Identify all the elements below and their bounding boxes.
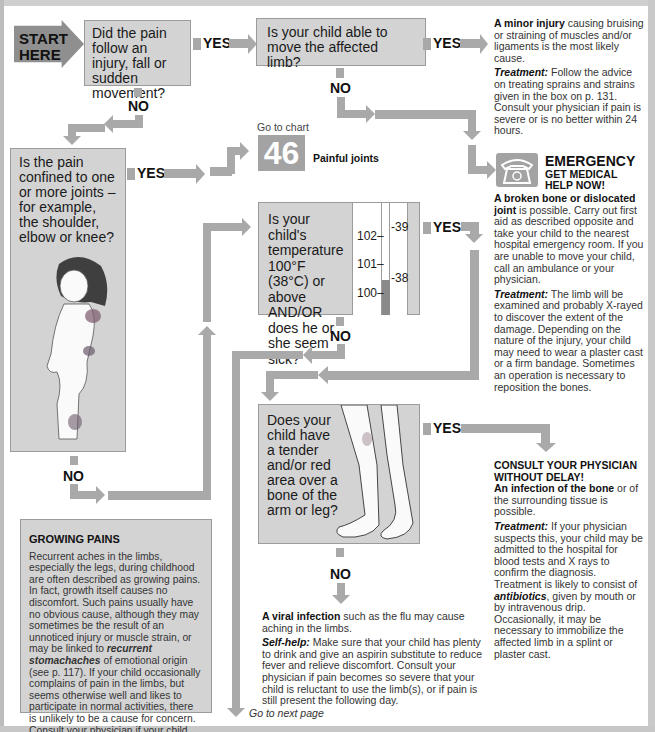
arrow-to-46-c <box>227 147 241 155</box>
emergency-result: A broken bone or dislocated joint is pos… <box>494 193 644 396</box>
arrow-q4-no-left <box>312 351 345 359</box>
no-label-q5: NO <box>330 566 351 582</box>
question-joints-text: Is the pain confined to one or more join… <box>19 154 115 245</box>
minor-injury-heading: A minor injury <box>494 17 565 29</box>
arrowhead-left <box>318 366 328 384</box>
arrowhead-down <box>332 595 350 604</box>
no-label-q4: NO <box>330 328 351 344</box>
consult-heading: An infection of the bone <box>494 482 614 494</box>
minor-injury-result: A minor injury causing bruising or strai… <box>494 18 644 140</box>
thermometer-scale: 102– 101– 100– -39 -38 <box>352 203 408 315</box>
yes-label-q5: YES <box>423 420 461 436</box>
question-move-limb: Is your child able to move the affected … <box>256 18 426 66</box>
tick-label: 39 <box>395 220 408 234</box>
yes-label-q3: YES <box>127 165 165 181</box>
yes-marker <box>193 38 201 50</box>
arrow-to-emergency-right <box>468 166 488 174</box>
arrow-down-to-q5 <box>470 250 479 380</box>
yes-label-q2: YES <box>423 35 461 51</box>
tick-label: 101 <box>357 257 377 271</box>
page-frame-top <box>0 0 655 6</box>
arrow-down-to-next-page <box>232 351 240 711</box>
arrow-q5-yes-right <box>461 424 549 433</box>
emergency-text: is possible. Carry out first aid as desc… <box>494 204 643 286</box>
yes-marker <box>423 222 431 234</box>
arrowhead-right <box>240 142 249 160</box>
emergency-treatment: The limb will be examined and probably X… <box>494 288 643 393</box>
painful-joints-link[interactable]: Painful joints <box>313 152 379 164</box>
arrow-q3-no-right <box>70 491 96 499</box>
question-temperature: Is your child's temperature 100°F (38°C)… <box>258 202 420 315</box>
question-injury-text: Did the pain follow an injury, fall or s… <box>92 25 167 101</box>
consult-title-line2: WITHOUT DELAY! <box>494 471 584 483</box>
yes-marker <box>423 423 431 435</box>
arrowhead-left <box>104 115 113 133</box>
f-tick-102: 102– <box>357 228 384 244</box>
yes-text: YES <box>137 165 165 181</box>
yes-text: YES <box>433 35 461 51</box>
arrow-up-to-q4-upper <box>203 227 211 322</box>
arrowhead-right <box>366 105 375 123</box>
arrowhead-up <box>198 326 216 335</box>
no-label-q1: NO <box>128 98 149 114</box>
yes-label-q4: YES <box>423 219 461 235</box>
growing-pains-box: GROWING PAINS Recurrent aches in the lim… <box>20 519 212 713</box>
consult-result: CONSULT YOUR PHYSICIAN WITHOUT DELAY! An… <box>494 460 644 663</box>
start-label-line2: HERE <box>19 46 61 63</box>
arrow-q2-no-long <box>375 110 475 119</box>
treatment-label: Treatment: <box>494 66 548 78</box>
arrow-to-q4-right <box>203 223 243 231</box>
arrowhead-down <box>463 131 481 140</box>
arrowhead-down <box>465 234 483 243</box>
yes-text: YES <box>203 35 231 51</box>
yes-marker <box>423 38 431 50</box>
no-marker-q4 <box>336 317 344 326</box>
consult-title: CONSULT YOUR PHYSICIAN WITHOUT DELAY! <box>494 460 644 483</box>
arrowhead-down <box>227 708 245 717</box>
arrow-q2-no-right <box>337 110 367 118</box>
antibiotics-term: antibiotics <box>494 590 547 602</box>
arrowhead-down <box>63 136 81 145</box>
question-injury: Did the pain follow an injury, fall or s… <box>84 20 191 86</box>
emergency-subtitle: GET MEDICAL HELP NOW! <box>545 169 617 191</box>
arrow-up-to-q4-lower <box>203 330 211 500</box>
arrow-q4-no-long <box>233 351 303 359</box>
go-to-next-page-link[interactable]: Go to next page <box>249 707 324 719</box>
telephone-icon-glyph <box>496 153 538 187</box>
telephone-icon <box>496 153 538 187</box>
yes-marker <box>127 168 135 180</box>
tick-label: 38 <box>395 271 408 285</box>
question-joints: Is the pain confined to one or more join… <box>10 148 126 452</box>
arrow-q3-no-long <box>108 491 204 500</box>
chart-46-link[interactable]: 46 <box>258 135 305 171</box>
no-marker-q1 <box>134 88 142 97</box>
arrow-q1-no-left2 <box>75 124 105 132</box>
arrowhead-down <box>536 443 556 452</box>
goto-chart-label: Go to chart <box>257 121 309 133</box>
arrowhead-right <box>487 161 496 179</box>
arrowhead-right <box>96 486 105 504</box>
start-label: START HERE <box>19 31 68 63</box>
start-label-line1: START <box>19 30 68 47</box>
emergency-title: EMERGENCY <box>545 154 635 169</box>
page-frame-left <box>0 0 4 732</box>
arrow-q2-no-down2 <box>468 110 476 132</box>
no-marker-q3 <box>70 456 78 465</box>
arrow-q2-yes <box>460 39 480 48</box>
arrowhead-right <box>242 218 251 236</box>
consult-title-line1: CONSULT YOUR PHYSICIAN <box>494 459 637 471</box>
f-tick-101: 101– <box>357 256 384 272</box>
arrow-q1-no-left <box>113 120 143 128</box>
arrow-q5-yes-down <box>541 424 550 444</box>
growing-pains-text-1: Recurrent aches in the limbs, especially… <box>29 551 200 655</box>
viral-infection-result: A viral infection such as the flu may ca… <box>262 611 487 710</box>
yes-text: YES <box>433 219 461 235</box>
f-tick-100: 100– <box>357 285 384 301</box>
tick-label: 100 <box>357 286 377 300</box>
no-label-q2: NO <box>330 80 351 96</box>
growing-pains-title: GROWING PAINS <box>29 534 203 546</box>
emergency-subtitle-line2: HELP NOW! <box>545 179 605 191</box>
yes-text: YES <box>433 420 461 436</box>
c-tick-39: -39 <box>391 219 408 235</box>
arrow-to-q5-left <box>328 371 478 380</box>
